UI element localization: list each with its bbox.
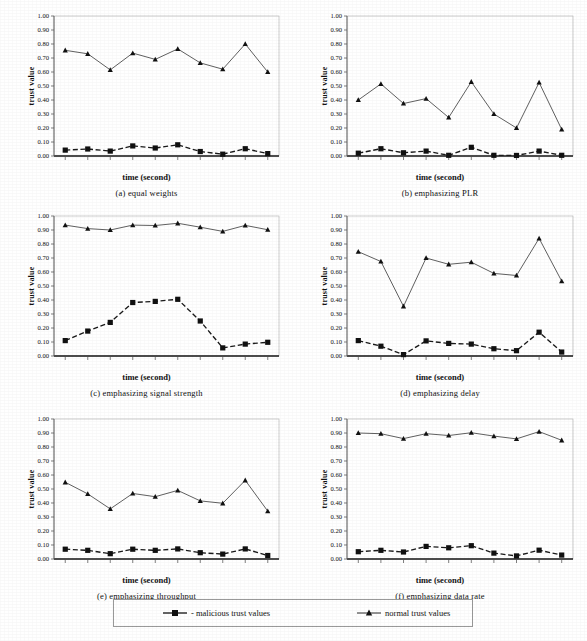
series-line-normal bbox=[65, 44, 268, 72]
data-point-malicious bbox=[63, 338, 68, 343]
legend-label-malicious: - malicious trust values bbox=[191, 608, 270, 618]
legend-item-normal: normal trust values bbox=[356, 608, 450, 618]
data-point-malicious bbox=[153, 299, 158, 304]
y-tick-label: 0.50 bbox=[37, 282, 49, 289]
data-point-normal bbox=[243, 223, 248, 228]
x-tick-label: 9 bbox=[244, 363, 248, 364]
y-axis-label: trust value bbox=[27, 67, 36, 106]
x-tick-label: 2 bbox=[86, 363, 90, 364]
x-tick-label: 7 bbox=[492, 566, 496, 567]
data-point-malicious bbox=[491, 551, 496, 556]
x-tick-label: 6 bbox=[470, 163, 474, 164]
data-point-normal bbox=[401, 304, 406, 309]
x-tick-label: 5 bbox=[154, 566, 158, 567]
y-tick-label: 0.60 bbox=[37, 268, 49, 275]
data-point-malicious bbox=[175, 546, 180, 551]
y-tick-label: 0.70 bbox=[37, 254, 49, 261]
data-point-normal bbox=[537, 236, 542, 241]
y-tick-label: 0.10 bbox=[330, 338, 342, 345]
y-tick-label: 0.80 bbox=[37, 240, 49, 247]
data-point-malicious bbox=[130, 143, 135, 148]
y-tick-label: 0.20 bbox=[330, 124, 342, 131]
x-tick-label: 7 bbox=[199, 566, 203, 567]
y-tick-label: 0.60 bbox=[330, 471, 342, 478]
data-point-malicious bbox=[378, 344, 383, 349]
x-tick-label: 6 bbox=[176, 163, 180, 164]
data-point-malicious bbox=[514, 348, 519, 353]
y-tick-label: 1.00 bbox=[330, 212, 342, 219]
data-point-malicious bbox=[491, 153, 496, 158]
y-tick-label: 0.70 bbox=[37, 54, 49, 61]
data-point-malicious bbox=[85, 328, 90, 333]
data-point-normal bbox=[469, 260, 474, 265]
data-point-malicious bbox=[198, 149, 203, 154]
data-point-malicious bbox=[130, 300, 135, 305]
x-tick-label: 6 bbox=[470, 566, 474, 567]
data-point-malicious bbox=[559, 153, 564, 158]
x-tick-label: 3 bbox=[402, 566, 406, 567]
x-tick-label: 1 bbox=[357, 163, 361, 164]
data-point-malicious bbox=[469, 342, 474, 347]
y-tick-label: 0.00 bbox=[330, 152, 342, 159]
x-tick-label: 6 bbox=[176, 566, 180, 567]
data-point-normal bbox=[537, 429, 542, 434]
chart-svg-a: 1.000.900.800.700.600.500.400.300.200.10… bbox=[0, 0, 293, 164]
chart-svg-b: 1.000.900.800.700.600.500.400.300.200.10… bbox=[293, 0, 587, 164]
data-point-malicious bbox=[130, 547, 135, 552]
y-tick-label: 0.80 bbox=[37, 40, 49, 47]
data-point-normal bbox=[85, 491, 90, 496]
x-tick-label: 6 bbox=[470, 363, 474, 364]
data-point-malicious bbox=[356, 151, 361, 156]
x-tick-label: 5 bbox=[447, 566, 451, 567]
series-line-normal bbox=[358, 82, 561, 130]
x-tick-label: 8 bbox=[221, 566, 225, 567]
y-tick-label: 0.20 bbox=[37, 124, 49, 131]
data-point-malicious bbox=[220, 152, 225, 157]
x-tick-label: 9 bbox=[537, 163, 541, 164]
data-point-malicious bbox=[424, 544, 429, 549]
data-point-malicious bbox=[63, 547, 68, 552]
x-tick-label: 8 bbox=[515, 566, 519, 567]
x-tick-label: 9 bbox=[537, 566, 541, 567]
y-tick-label: 0.90 bbox=[330, 226, 342, 233]
data-point-malicious bbox=[265, 151, 270, 156]
y-tick-label: 0.90 bbox=[37, 26, 49, 33]
y-tick-label: 0.40 bbox=[330, 96, 342, 103]
x-tick-label: 3 bbox=[109, 363, 113, 364]
y-tick-label: 0.00 bbox=[330, 352, 342, 359]
chart-panel-d: 1.000.900.800.700.600.500.400.300.200.10… bbox=[293, 200, 587, 403]
series-line-malicious bbox=[358, 147, 561, 155]
data-point-malicious bbox=[85, 146, 90, 151]
y-axis-label: trust value bbox=[27, 470, 36, 509]
data-point-normal bbox=[198, 60, 203, 65]
data-point-malicious bbox=[108, 551, 113, 556]
legend-box: - malicious trust values normal trust va… bbox=[113, 599, 473, 627]
y-tick-label: 0.10 bbox=[37, 541, 49, 548]
x-tick-label: 5 bbox=[154, 363, 158, 364]
x-axis-label: time (second) bbox=[293, 172, 587, 182]
x-tick-label: 1 bbox=[64, 363, 68, 364]
x-tick-label: 3 bbox=[109, 163, 113, 164]
y-tick-label: 0.80 bbox=[37, 443, 49, 450]
y-tick-label: 0.00 bbox=[37, 352, 49, 359]
x-tick-label: 8 bbox=[515, 363, 519, 364]
legend-label-normal: normal trust values bbox=[385, 608, 450, 618]
y-tick-label: 0.60 bbox=[330, 68, 342, 75]
data-point-malicious bbox=[198, 550, 203, 555]
x-axis-label: time (second) bbox=[293, 575, 587, 585]
y-tick-label: 0.80 bbox=[330, 443, 342, 450]
data-point-malicious bbox=[469, 145, 474, 150]
data-point-normal bbox=[130, 491, 135, 496]
x-tick-label: 4 bbox=[424, 566, 428, 567]
x-tick-label: 9 bbox=[244, 163, 248, 164]
y-tick-label: 0.90 bbox=[330, 429, 342, 436]
y-tick-label: 0.40 bbox=[330, 499, 342, 506]
x-tick-label: 4 bbox=[131, 163, 135, 164]
data-point-malicious bbox=[243, 146, 248, 151]
data-point-malicious bbox=[446, 341, 451, 346]
triangle-marker-icon bbox=[356, 608, 382, 618]
data-point-normal bbox=[108, 506, 113, 511]
series-line-malicious bbox=[65, 145, 268, 154]
data-point-malicious bbox=[356, 549, 361, 554]
plot-area-e: 1.000.900.800.700.600.500.400.300.200.10… bbox=[0, 403, 293, 597]
